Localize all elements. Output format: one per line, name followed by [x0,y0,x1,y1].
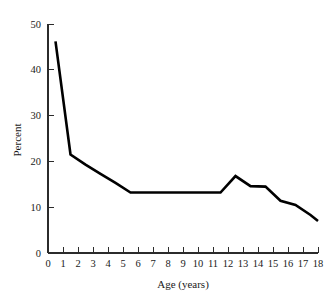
x-tick-label-17: 17 [298,258,309,269]
chart-background [0,0,334,295]
x-tick-label-5: 5 [120,258,125,269]
x-tick-label-9: 9 [180,258,185,269]
x-tick-label-13: 13 [238,258,249,269]
x-tick-label-11: 11 [208,258,218,269]
y-tick-label-40: 40 [31,64,42,75]
x-tick-label-0: 0 [45,258,50,269]
x-tick-label-15: 15 [268,258,279,269]
line-chart: 01020304050 0123456789101112131415161718… [0,0,334,295]
x-tick-label-6: 6 [135,258,140,269]
x-tick-label-16: 16 [283,258,294,269]
y-tick-label-10: 10 [31,202,42,213]
chart-figure: 01020304050 0123456789101112131415161718… [0,0,334,295]
x-tick-label-1: 1 [60,258,65,269]
x-tick-label-14: 14 [253,258,264,269]
x-tick-label-10: 10 [193,258,204,269]
y-tick-label-30: 30 [31,110,42,121]
x-tick-label-8: 8 [165,258,170,269]
x-tick-label-4: 4 [105,258,111,269]
y-axis-title: Percent [11,124,23,157]
x-tick-label-7: 7 [150,258,155,269]
x-tick-label-3: 3 [90,258,95,269]
y-tick-label-0: 0 [36,248,41,259]
x-tick-label-18: 18 [313,258,324,269]
x-tick-label-12: 12 [223,258,234,269]
x-tick-label-2: 2 [75,258,80,269]
y-tick-label-50: 50 [31,19,42,30]
x-axis-title: Age (years) [157,278,209,291]
y-tick-label-20: 20 [31,156,42,167]
